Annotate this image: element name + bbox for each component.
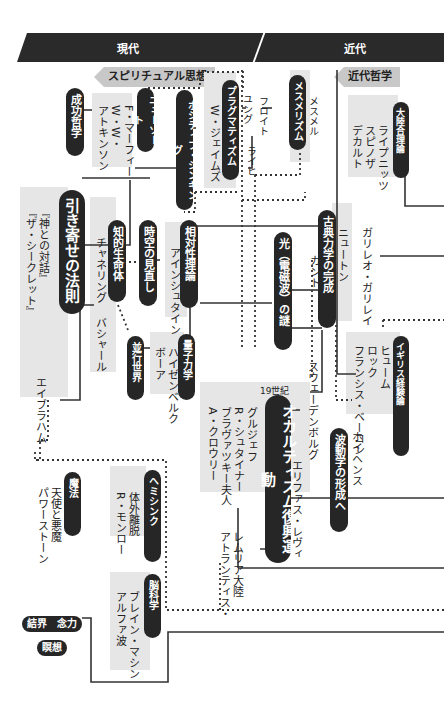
- person-monroe: R・モンロー: [114, 492, 127, 555]
- power-stone: パワーストーン: [36, 487, 49, 564]
- work-conversations-with-god: 『神との対話』: [37, 207, 50, 284]
- person-atkinson: アトキンソン: [96, 105, 109, 171]
- channeling: チャネリング: [94, 237, 107, 303]
- node-mesmerism: メスメリズム: [289, 75, 306, 150]
- node-continental-rationalism: 大陸合理論: [393, 102, 409, 178]
- node-success-philosophy: 成功哲学: [66, 88, 84, 156]
- person-crowley: A・クロウリー: [206, 407, 219, 481]
- node-classical-mechanics: 古典力学の完成: [318, 210, 336, 328]
- brain-machine: ブレイン・マシン: [127, 591, 140, 679]
- abraham-label: エイブラハム: [34, 370, 60, 443]
- person-reich: ライヒ: [245, 146, 256, 176]
- node-barrier-psychokinesis: 結界 念力: [22, 616, 82, 632]
- node-pragmatism: プラグマティズム: [222, 80, 239, 180]
- node-quantum-mechanics: 量子力学: [178, 334, 195, 400]
- newton-label: ニュートン: [336, 220, 362, 282]
- attraction-works: 『神との対話』 『ザ・シークレット』: [24, 200, 63, 317]
- lemuria: レムリア大陸: [231, 531, 244, 597]
- person-steiner: R・シュタイナー: [232, 407, 245, 492]
- person-ww: W・W・: [109, 105, 122, 149]
- person-jung: ユング: [241, 94, 252, 124]
- atlantis: アトランティス・: [218, 531, 231, 619]
- node-british-empiricism: イギリス経験論: [393, 336, 409, 456]
- node-law-of-attraction: 引き寄せの法則: [59, 190, 85, 314]
- levi-label: エリファス・レヴィ: [290, 453, 316, 559]
- work-the-secret: 『ザ・シークレット』: [24, 207, 37, 317]
- node-parallel-worlds: 並行世界: [127, 336, 144, 400]
- node-spacetime-review: 時空の見直し: [139, 220, 157, 306]
- person-freud: フロイト: [257, 96, 268, 136]
- node-relativity: 相対性理論: [180, 220, 198, 308]
- person-james: W・ジェイムズ: [208, 105, 221, 182]
- node-occultism-revival: オカルティズム復興運動: [265, 395, 291, 563]
- person-bohr: ボーア: [153, 347, 166, 380]
- huygens-label: ホイヘンス: [350, 424, 376, 486]
- person-huygens: ホイヘンス: [350, 431, 363, 486]
- galileo-label: ガリレオ・ガリレイ: [360, 220, 386, 326]
- person-abraham: エイブラハム: [34, 377, 47, 443]
- node-positive-thinking: ポジティブ・シンキング: [176, 90, 193, 210]
- node-magic: 魔法: [64, 472, 81, 536]
- person-levi: エリファス・レヴィ: [290, 460, 303, 559]
- atlantis-label: レムリア大陸 アトランティス・: [218, 524, 257, 619]
- person-newton: ニュートン: [336, 227, 349, 282]
- angels-demons: 天使と悪魔: [49, 487, 62, 542]
- person-swedenborg: スウェーデンボルグ: [306, 361, 319, 460]
- person-hume: ヒューム: [378, 345, 391, 389]
- alpha-wave: アルファ波: [114, 591, 127, 646]
- node-brain-science: 脳科学: [144, 574, 161, 638]
- reich-label: ライヒ: [244, 140, 270, 176]
- obe: 体外離脱: [127, 492, 140, 536]
- node-meditation: 瞑想: [37, 640, 67, 656]
- node-hemi-sync: ヘミシンク: [144, 470, 161, 562]
- person-spinoza: スピノザ: [363, 125, 376, 169]
- person-locke: ロック: [365, 345, 378, 378]
- person-descartes: デカルト: [350, 125, 363, 169]
- person-blavatsky: ブラヴァツキー夫人: [219, 407, 232, 506]
- person-mesmer: メスメル: [307, 96, 318, 136]
- swedenborg-label: スウェーデンボルグ: [306, 354, 332, 460]
- person-leibniz: ライプニッツ: [376, 125, 389, 191]
- node-wave-mechanics: 波動学の形成へ: [330, 428, 348, 532]
- freud-label: フロイト: [256, 90, 282, 136]
- node-light-mystery: 光（電磁波）の謎: [274, 232, 292, 350]
- mesmer-label: メスメル: [306, 90, 332, 136]
- node-intelligent-life: 知的生命体: [108, 220, 126, 302]
- person-galileo: ガリレオ・ガリレイ: [360, 227, 373, 326]
- node-new-thought: ニューソート: [137, 88, 154, 152]
- bashar-label: バシャール: [94, 310, 120, 372]
- bashar: バシャール: [94, 317, 107, 372]
